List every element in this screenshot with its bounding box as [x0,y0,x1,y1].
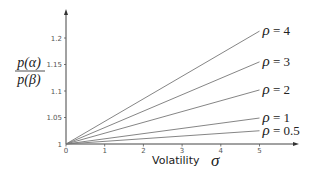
x-tick-label: 0 [64,147,68,155]
y-tick-label: 1 [58,141,62,149]
x-tick-label: 2 [141,147,145,155]
x-tick-label: 5 [257,147,261,155]
y-tick-label: 1.15 [46,61,62,69]
series-line [66,90,260,144]
y-ticks: 11.051.11.151.2 [46,35,66,149]
x-tick-label: 1 [102,147,106,155]
series-lines [66,31,260,144]
series-line [66,62,260,144]
x-axis-arrow-icon [293,142,299,146]
series-label: ρ = 4 [262,22,291,38]
series-label: ρ = 2 [262,81,291,97]
series-labels: ρ = 4ρ = 3ρ = 2ρ = 1ρ = 0.5 [262,22,300,138]
x-axis-label: Volatility σ [152,151,220,170]
y-tick-label: 1.1 [51,88,62,96]
x-label-symbol: σ [211,151,220,170]
series-line [66,118,260,144]
y-axis-arrow-icon [64,9,68,15]
x-label-text: Volatility [152,154,200,167]
y-label-numerator: p(α) [16,55,41,71]
series-line [66,131,260,144]
chart: 012345 11.051.11.151.2 ρ = 4ρ = 3ρ = 2ρ … [0,0,315,179]
series-label: ρ = 0.5 [262,122,300,138]
y-tick-label: 1.2 [51,35,62,43]
y-tick-label: 1.05 [46,114,62,122]
y-label-denominator: p(β) [16,72,41,88]
series-line [66,31,260,144]
y-axis-label: p(α) p(β) [15,55,45,88]
series-label: ρ = 3 [262,53,291,69]
